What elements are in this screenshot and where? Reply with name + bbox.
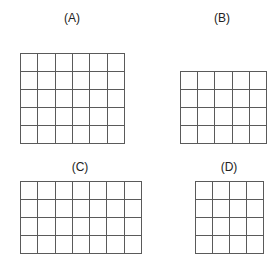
grid-cell — [21, 236, 38, 254]
grid-cell — [215, 126, 232, 144]
grid-cell — [107, 236, 124, 254]
grid-cell — [108, 54, 125, 72]
grid-cell — [213, 218, 230, 236]
grid-cell — [247, 218, 264, 236]
grid-cell — [233, 108, 250, 126]
grid-cell — [108, 126, 125, 144]
grid-cell — [198, 72, 215, 90]
grid-cell — [233, 72, 250, 90]
grid-cell — [250, 108, 267, 126]
grid-cell — [108, 108, 125, 126]
grid-cell — [247, 200, 264, 218]
grid-cell — [250, 90, 267, 108]
grid-cell — [38, 200, 55, 218]
grid-cell — [125, 182, 142, 200]
grid-cell — [73, 54, 90, 72]
grid-cell — [73, 90, 90, 108]
grid-cell — [196, 200, 213, 218]
grid-cell — [108, 72, 125, 90]
grid-cell — [125, 236, 142, 254]
label-a: (A) — [52, 11, 92, 25]
grid-cell — [215, 72, 232, 90]
grid-cell — [181, 108, 198, 126]
grid-cell — [230, 200, 247, 218]
grid-cell — [90, 90, 107, 108]
grid-cell — [198, 90, 215, 108]
grid-cell — [56, 90, 73, 108]
grid-cell — [21, 90, 38, 108]
grid-cell — [73, 218, 90, 236]
grid-cell — [233, 90, 250, 108]
grid-cell — [21, 182, 38, 200]
grid-cell — [213, 200, 230, 218]
grid-cell — [21, 126, 38, 144]
grid-cell — [90, 108, 107, 126]
grid-cell — [213, 236, 230, 254]
grid-cell — [250, 72, 267, 90]
grid-cell — [56, 72, 73, 90]
grid-cell — [38, 90, 55, 108]
grid-cell — [90, 126, 107, 144]
grid-cell — [107, 200, 124, 218]
grid-cell — [215, 90, 232, 108]
grid-cell — [56, 108, 73, 126]
grid-cell — [56, 182, 73, 200]
grid-cell — [107, 218, 124, 236]
grid-cell — [230, 218, 247, 236]
grid-cell — [38, 182, 55, 200]
grid-cell — [21, 218, 38, 236]
grid-b — [180, 71, 267, 144]
grid-cell — [215, 108, 232, 126]
grid-cell — [90, 182, 107, 200]
grid-cell — [38, 54, 55, 72]
grid-cell — [181, 72, 198, 90]
grid-cell — [38, 218, 55, 236]
grid-cell — [247, 236, 264, 254]
grid-cell — [181, 126, 198, 144]
grid-d — [195, 181, 264, 254]
label-d: (D) — [209, 160, 249, 174]
grid-cell — [213, 182, 230, 200]
grid-cell — [73, 72, 90, 90]
grid-cell — [90, 218, 107, 236]
grid-cell — [21, 72, 38, 90]
grid-cell — [56, 218, 73, 236]
grid-cell — [90, 72, 107, 90]
grid-cell — [198, 108, 215, 126]
grid-cell — [233, 126, 250, 144]
grid-cell — [125, 218, 142, 236]
grid-cell — [90, 200, 107, 218]
grid-cell — [198, 126, 215, 144]
grid-cell — [56, 126, 73, 144]
grid-cell — [21, 200, 38, 218]
grid-cell — [247, 182, 264, 200]
grid-cell — [230, 236, 247, 254]
grid-c — [20, 181, 142, 254]
grid-cell — [56, 236, 73, 254]
grid-a — [20, 53, 125, 144]
grid-cell — [196, 182, 213, 200]
label-c: (C) — [60, 160, 100, 174]
grid-cell — [230, 182, 247, 200]
grid-cell — [107, 182, 124, 200]
grid-cell — [73, 200, 90, 218]
grid-cell — [56, 200, 73, 218]
grid-cell — [56, 54, 73, 72]
grid-cell — [181, 90, 198, 108]
grid-cell — [250, 126, 267, 144]
grid-cell — [108, 90, 125, 108]
grid-cell — [38, 72, 55, 90]
grid-cell — [90, 54, 107, 72]
grid-cell — [21, 54, 38, 72]
label-b: (B) — [202, 11, 242, 25]
grid-cell — [21, 108, 38, 126]
grid-cell — [38, 236, 55, 254]
grid-cell — [73, 108, 90, 126]
grid-cell — [196, 236, 213, 254]
grid-cell — [38, 126, 55, 144]
grid-cell — [73, 236, 90, 254]
grid-cell — [73, 126, 90, 144]
grid-cell — [90, 236, 107, 254]
grid-cell — [125, 200, 142, 218]
grid-cell — [73, 182, 90, 200]
